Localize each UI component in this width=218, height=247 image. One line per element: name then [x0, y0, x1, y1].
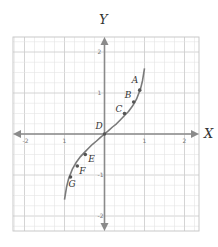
data-point-e — [84, 153, 88, 157]
x-axis-right-arrow-icon — [191, 130, 199, 138]
x-tick-label: 1 — [63, 137, 67, 144]
point-label-b: B — [124, 90, 132, 100]
y-axis-up-arrow-icon — [101, 37, 109, 45]
y-axis-down-arrow-icon — [101, 223, 109, 231]
data-point-c — [123, 112, 127, 116]
point-label-c: C — [116, 104, 123, 114]
point-label-a: A — [131, 75, 139, 85]
data-point-b — [132, 100, 136, 104]
data-point-d — [103, 132, 107, 136]
point-label-g: G — [69, 179, 76, 189]
x-tick-label: -2 — [23, 137, 29, 144]
y-tick-label: 1 — [98, 89, 102, 96]
y-tick-label: -2 — [98, 212, 104, 219]
data-point-a — [138, 88, 142, 92]
x-tick-label: 1 — [143, 137, 147, 144]
point-label-f: F — [78, 166, 86, 176]
x-tick-label: 2 — [183, 137, 187, 144]
point-label-e: E — [87, 154, 95, 164]
y-tick-label: -1 — [98, 171, 104, 178]
point-label-d: D — [95, 121, 103, 131]
chart: -211221-1-2 ABCDEFG X Y — [0, 0, 218, 247]
x-axis-label: X — [203, 126, 214, 141]
y-tick-label: 2 — [98, 48, 102, 55]
y-axis-label: Y — [99, 12, 109, 27]
